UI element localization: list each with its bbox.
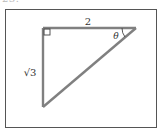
angle-label: θ xyxy=(113,31,119,41)
right-triangle xyxy=(43,28,136,107)
triangle-diagram: 2 θ √3 xyxy=(0,0,160,130)
hypotenuse xyxy=(43,28,136,107)
left-side-label: √3 xyxy=(24,67,37,78)
top-side-label: 2 xyxy=(85,16,91,27)
right-angle-marker-icon xyxy=(44,29,50,35)
angle-arc-icon xyxy=(122,28,125,37)
